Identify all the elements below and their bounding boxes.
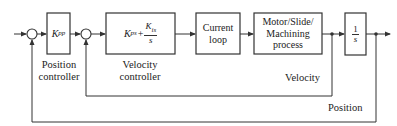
caption-line: controller xyxy=(110,71,170,83)
kis-subscript: is xyxy=(151,26,156,34)
ki-fraction: Kis s xyxy=(144,22,157,45)
label-line: Current xyxy=(203,22,234,34)
fraction-numerator: 1 xyxy=(352,25,359,35)
current-loop-label: Current loop xyxy=(196,13,240,54)
kps-symbol: K xyxy=(124,28,131,40)
summing-junction-velocity xyxy=(81,29,91,39)
fraction-denominator: s xyxy=(149,36,153,45)
velocity-controller-transfer-function: Kps+ Kis s xyxy=(106,13,175,54)
label-line: Motor/Slide/ xyxy=(262,16,313,28)
caption-line: Position xyxy=(30,59,88,71)
kps-subscript: ps xyxy=(131,28,137,40)
integrator-fraction: 1 s xyxy=(352,25,359,44)
fraction-denominator: s xyxy=(354,35,358,44)
plant-label: Motor/Slide/ Machining process xyxy=(254,13,322,54)
position-controller-gain: Kpp xyxy=(47,13,70,54)
position-signal-label: Position xyxy=(328,102,378,114)
integrator-label: 1 s xyxy=(345,13,366,55)
caption-line: controller xyxy=(30,71,88,83)
velocity-controller-caption: Velocity controller xyxy=(110,59,170,83)
label-line: Machining xyxy=(266,28,309,40)
label-line: process xyxy=(273,39,303,51)
plus-sign: + xyxy=(138,28,144,40)
position-controller-caption: Position controller xyxy=(30,59,88,83)
gain-subscript: pp xyxy=(58,28,65,40)
summing-junction-position xyxy=(27,29,37,39)
velocity-signal-label: Velocity xyxy=(285,72,335,84)
caption-line: Velocity xyxy=(110,59,170,71)
label-line: loop xyxy=(209,34,227,46)
